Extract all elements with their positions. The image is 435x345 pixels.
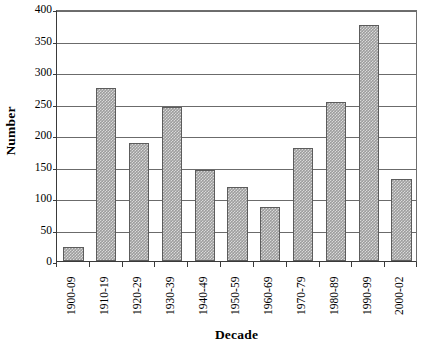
bar [391,179,411,261]
y-axis-tick-label: 150 [35,162,52,174]
x-axis-tick-mark [154,262,155,267]
bar [63,247,83,261]
x-axis-tick-labels: 1900-091910-191920-291930-391940-491950-… [56,268,417,326]
x-axis-tick-mark [384,262,385,267]
x-axis-tick-mark [319,262,320,267]
x-axis-tick-mark [122,262,123,267]
bar [359,25,379,261]
y-axis-title: Number [0,0,22,262]
x-axis-tick-mark [286,262,287,267]
bar [162,107,182,261]
y-axis-tick-label: 0 [46,256,52,268]
x-axis-tick-mark [56,262,57,267]
y-axis-tick-label: 100 [35,193,52,205]
x-axis-tick-mark [416,262,417,267]
x-axis-tick-mark [253,262,254,267]
plot-area [56,10,417,262]
bar [96,88,116,261]
bar [326,102,346,261]
y-axis-tick-label: 200 [35,130,52,142]
x-axis-tick-label-text: 2000-02 [395,277,407,315]
bar [293,148,313,261]
y-axis-tick-label: 350 [35,36,52,48]
x-axis-tick-mark [220,262,221,267]
y-axis-tick-labels: 050100150200250300350400 [22,10,56,262]
y-axis-tick-label: 300 [35,67,52,79]
bar [260,207,280,261]
bar [129,143,149,261]
x-axis-tick-label: 2000-02 [372,268,430,324]
x-axis-tick-mark [351,262,352,267]
bar [227,187,247,261]
x-axis-tick-mark [187,262,188,267]
y-axis-tick-label: 250 [35,99,52,111]
y-axis-tick-label: 400 [35,4,52,16]
y-axis-tick-label: 50 [41,225,53,237]
y-axis-title-label: Number [3,106,19,155]
bars-group [57,11,416,261]
x-axis-title: Decade [56,327,417,343]
bar-chart: Number 050100150200250300350400 1900-091… [0,0,435,345]
bar [195,170,215,261]
x-axis-tick-mark [89,262,90,267]
